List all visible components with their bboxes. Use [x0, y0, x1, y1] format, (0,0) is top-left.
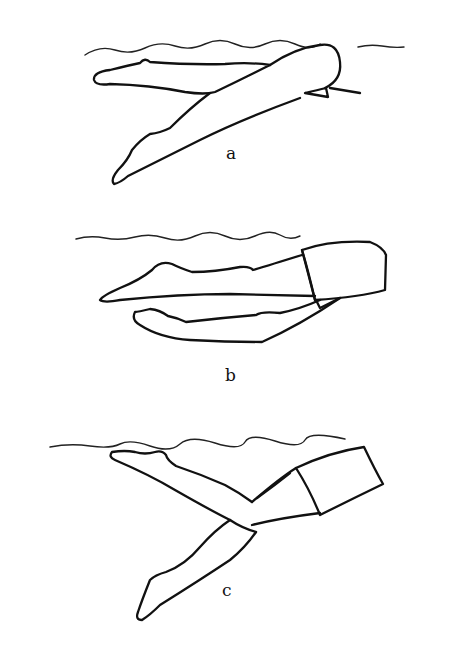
panel-a-label: a — [226, 143, 236, 163]
panel-a-drawing — [85, 41, 404, 185]
panel-c-label: c — [222, 580, 232, 600]
kick-illustration: a b c — [0, 0, 454, 645]
panel-c-drawing — [50, 435, 383, 620]
kick-drawing — [0, 0, 454, 645]
panel-b-drawing — [76, 232, 386, 342]
panel-b-label: b — [225, 365, 236, 385]
